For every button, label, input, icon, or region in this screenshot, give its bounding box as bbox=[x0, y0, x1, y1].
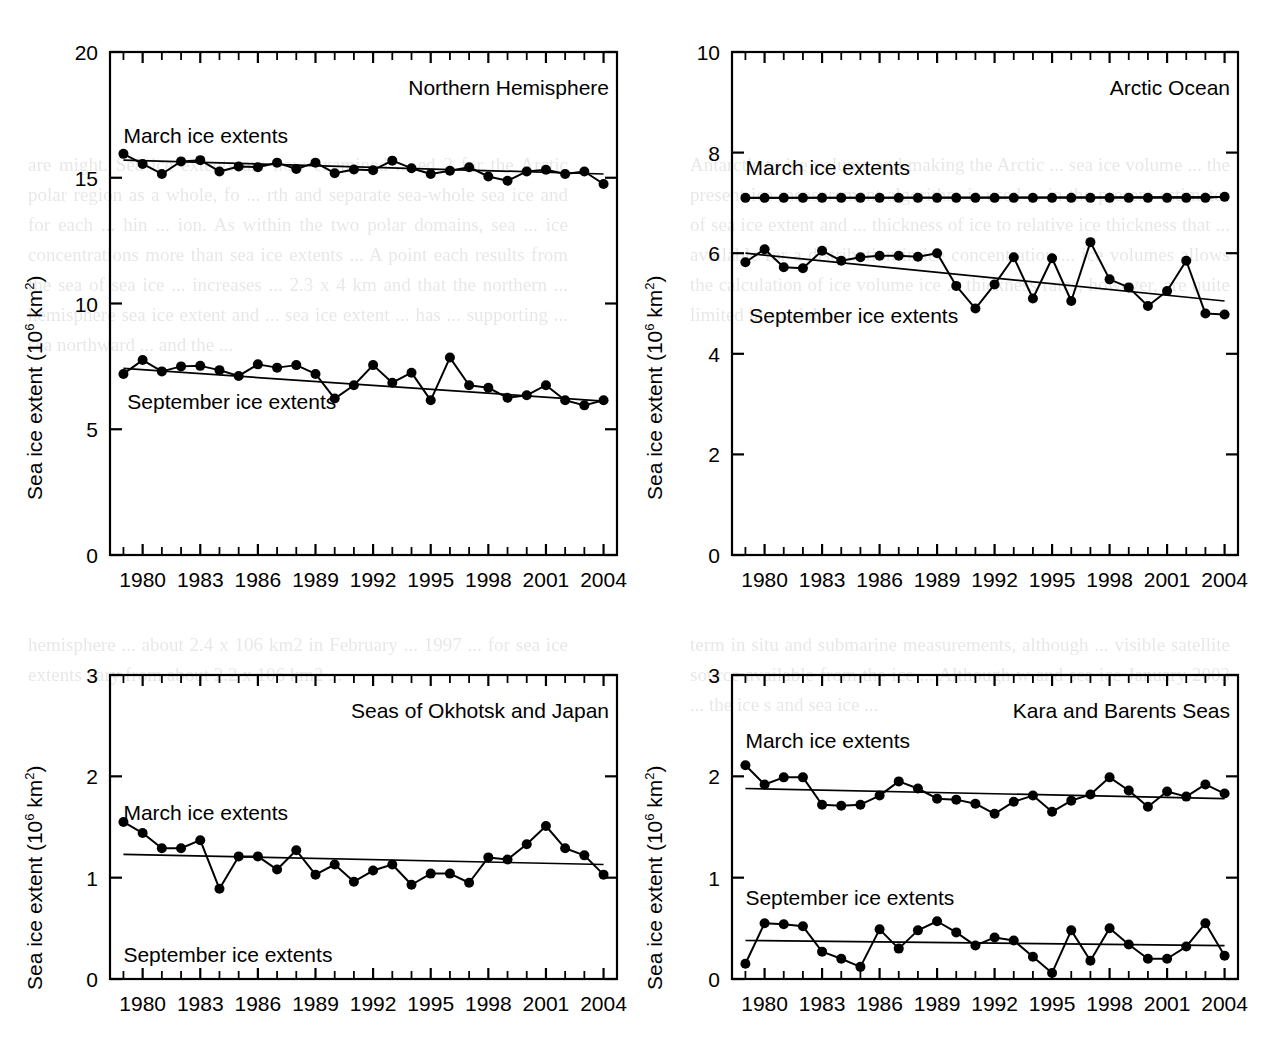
x-tick-label: 1998 bbox=[1086, 992, 1133, 1015]
data-point bbox=[855, 800, 865, 810]
data-point bbox=[1162, 193, 1172, 203]
y-tick-label: 1 bbox=[86, 867, 98, 890]
data-point bbox=[951, 795, 961, 805]
march-series-label: March ice extents bbox=[745, 729, 910, 753]
x-tick-label: 1983 bbox=[799, 992, 846, 1015]
x-tick-label: 1980 bbox=[741, 992, 788, 1015]
x-tick-label: 1989 bbox=[292, 992, 339, 1015]
data-point bbox=[1143, 802, 1153, 812]
data-point bbox=[1047, 968, 1057, 978]
data-point bbox=[387, 859, 397, 869]
data-point bbox=[932, 916, 942, 926]
data-point bbox=[1220, 789, 1230, 799]
y-tick-label: 8 bbox=[708, 142, 720, 165]
data-point bbox=[445, 353, 455, 363]
data-point bbox=[522, 839, 532, 849]
x-tick-label: 1986 bbox=[856, 992, 903, 1015]
data-point bbox=[195, 835, 205, 845]
data-point bbox=[330, 859, 340, 869]
x-tick-label: 2001 bbox=[1144, 992, 1191, 1015]
y-tick-label: 20 bbox=[75, 41, 98, 64]
x-tick-label: 1983 bbox=[177, 568, 224, 591]
x-tick-label: 1995 bbox=[407, 568, 454, 591]
march-series-label: March ice extents bbox=[745, 156, 910, 180]
trend-line bbox=[123, 160, 603, 174]
data-point bbox=[599, 870, 609, 880]
data-point bbox=[407, 368, 417, 378]
y-tick-label: 4 bbox=[708, 343, 720, 366]
x-tick-label: 1989 bbox=[914, 568, 961, 591]
data-point bbox=[990, 932, 1000, 942]
data-point bbox=[176, 361, 186, 371]
data-point bbox=[579, 166, 589, 176]
data-point bbox=[445, 869, 455, 879]
y-tick-label: 2 bbox=[708, 443, 720, 466]
data-point bbox=[990, 279, 1000, 289]
data-point bbox=[176, 843, 186, 853]
data-point bbox=[740, 760, 750, 770]
data-point bbox=[1009, 797, 1019, 807]
x-tick-label: 1995 bbox=[1029, 992, 1076, 1015]
data-point bbox=[560, 843, 570, 853]
data-point bbox=[1085, 790, 1095, 800]
data-point bbox=[1028, 293, 1038, 303]
data-point bbox=[253, 359, 263, 369]
panel-title: Kara and Barents Seas bbox=[1013, 699, 1230, 723]
data-point bbox=[970, 304, 980, 314]
data-point bbox=[798, 772, 808, 782]
x-tick-label: 1986 bbox=[235, 992, 282, 1015]
y-tick-label: 10 bbox=[75, 293, 98, 316]
data-point bbox=[798, 921, 808, 931]
data-point bbox=[1162, 954, 1172, 964]
data-point bbox=[483, 383, 493, 393]
data-point bbox=[579, 400, 589, 410]
data-point bbox=[483, 171, 493, 181]
march-series-label: March ice extents bbox=[123, 124, 288, 148]
data-point bbox=[541, 821, 551, 831]
x-tick-label: 1992 bbox=[350, 568, 397, 591]
data-point bbox=[157, 169, 167, 179]
y-tick-label: 5 bbox=[86, 418, 98, 441]
data-point bbox=[817, 246, 827, 256]
september-series-label: September ice extents bbox=[127, 390, 336, 414]
data-point bbox=[118, 369, 128, 379]
data-point bbox=[599, 179, 609, 189]
data-point bbox=[118, 149, 128, 159]
data-point bbox=[1200, 918, 1210, 928]
x-tick-label: 1983 bbox=[799, 568, 846, 591]
series-line bbox=[123, 154, 603, 184]
data-point bbox=[1200, 779, 1210, 789]
panel-kara-and-barents-seas: Sea ice extent (106 km2) 198019831986198… bbox=[620, 615, 1262, 1044]
sea-ice-extent-figure: Sea ice extent (106 km2) 198019831986198… bbox=[0, 0, 1262, 1044]
panel-northern-hemisphere: Sea ice extent (106 km2) 198019831986198… bbox=[0, 0, 640, 620]
data-point bbox=[541, 380, 551, 390]
data-point bbox=[195, 155, 205, 165]
x-tick-label: 1998 bbox=[1086, 568, 1133, 591]
data-point bbox=[875, 251, 885, 261]
x-tick-label: 1983 bbox=[177, 992, 224, 1015]
trend-line bbox=[745, 253, 1224, 301]
x-tick-label: 1989 bbox=[914, 992, 961, 1015]
y-axis-label: Sea ice extent (106 km2) bbox=[642, 765, 667, 990]
x-tick-label: 1986 bbox=[235, 568, 282, 591]
data-point bbox=[214, 365, 224, 375]
y-axis-label: Sea ice extent (106 km2) bbox=[22, 275, 47, 500]
data-point bbox=[875, 924, 885, 934]
y-tick-label: 2 bbox=[86, 765, 98, 788]
data-point bbox=[1220, 310, 1230, 320]
y-tick-label: 10 bbox=[697, 41, 720, 64]
data-point bbox=[368, 866, 378, 876]
panel-title: Seas of Okhotsk and Japan bbox=[351, 699, 609, 723]
x-tick-label: 2001 bbox=[523, 992, 570, 1015]
data-point bbox=[1066, 796, 1076, 806]
y-tick-label: 0 bbox=[708, 544, 720, 567]
data-point bbox=[195, 361, 205, 371]
data-point bbox=[349, 380, 359, 390]
data-point bbox=[817, 800, 827, 810]
data-point bbox=[855, 252, 865, 262]
data-point bbox=[779, 262, 789, 272]
data-point bbox=[951, 927, 961, 937]
data-point bbox=[1105, 772, 1115, 782]
data-point bbox=[1085, 956, 1095, 966]
data-point bbox=[894, 776, 904, 786]
